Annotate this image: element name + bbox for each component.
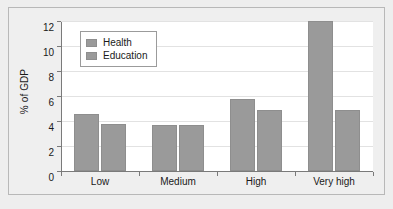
x-tick-label-very-high: Very high bbox=[313, 176, 355, 187]
x-tick-label-high: High bbox=[246, 176, 267, 187]
x-tick-mark bbox=[61, 172, 62, 176]
x-tick-mark bbox=[373, 172, 374, 176]
y-tick-mark bbox=[57, 121, 61, 122]
y-axis-line bbox=[61, 22, 62, 172]
figure-frame: % of GDP 024681012 LowMediumHighVery hig… bbox=[8, 7, 385, 195]
bar-education-very-high bbox=[335, 110, 360, 171]
y-tick-mark bbox=[57, 71, 61, 72]
legend-label: Education bbox=[103, 50, 147, 61]
bar-education-high bbox=[257, 110, 282, 171]
bar-health-low bbox=[74, 114, 99, 172]
chart-figure: % of GDP 024681012 LowMediumHighVery hig… bbox=[0, 0, 393, 209]
x-tick-label-medium: Medium bbox=[160, 176, 196, 187]
bar-education-low bbox=[101, 124, 126, 172]
bar-health-very-high bbox=[308, 21, 333, 171]
legend-label: Health bbox=[103, 37, 132, 48]
y-axis-title: % of GDP bbox=[19, 52, 30, 132]
legend-swatch-icon bbox=[86, 52, 97, 60]
plot-area: 024681012 LowMediumHighVery high HealthE… bbox=[61, 22, 373, 172]
x-tick-mark bbox=[295, 172, 296, 176]
y-tick-mark bbox=[57, 96, 61, 97]
legend-item-education: Education bbox=[86, 49, 147, 62]
bar-health-high bbox=[230, 99, 255, 171]
legend-item-health: Health bbox=[86, 36, 147, 49]
chart-legend: HealthEducation bbox=[80, 31, 157, 67]
x-tick-mark bbox=[139, 172, 140, 176]
bar-education-medium bbox=[179, 125, 204, 171]
x-tick-label-low: Low bbox=[91, 176, 109, 187]
y-tick-mark bbox=[57, 146, 61, 147]
y-tick-mark bbox=[57, 46, 61, 47]
bar-health-medium bbox=[152, 125, 177, 171]
y-tick-mark bbox=[57, 21, 61, 22]
x-tick-mark bbox=[217, 172, 218, 176]
legend-swatch-icon bbox=[86, 39, 97, 47]
